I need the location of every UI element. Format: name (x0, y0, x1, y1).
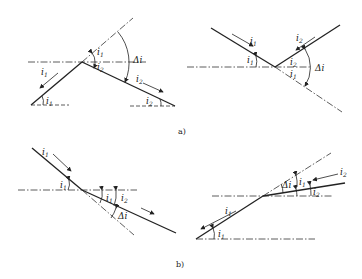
label-i1-top: i1 (97, 47, 104, 58)
label-i1-upper: i1 (299, 177, 306, 188)
caption-b: b) (176, 260, 184, 269)
label-i1-arrow: i1 (225, 206, 232, 217)
label-delta-i: Δi (281, 180, 291, 190)
panel-b-right: i1 i2 Δi i1 i2 i1 (196, 153, 347, 240)
label-i2-arrow: i2 (296, 33, 303, 44)
grade-line-i1 (196, 196, 263, 239)
label-i2-base: i2 (146, 96, 153, 107)
label-i2-mid: i2 (97, 62, 104, 73)
label-i1-arrow: i1 (42, 147, 49, 158)
label-i1-base: i1 (46, 96, 53, 107)
angle-arc-i2-inner (100, 190, 102, 203)
grade-line-i2 (275, 25, 340, 67)
grade-extension-line (82, 18, 133, 62)
label-delta-i: Δi (117, 211, 127, 221)
grade-line-i2 (82, 190, 176, 233)
label-i1-extension: i1 (290, 69, 297, 80)
direction-arrow-i2 (143, 83, 163, 92)
direction-arrow-i2 (313, 174, 338, 180)
label-i1-angle: i1 (60, 180, 67, 191)
caption-a: a) (178, 127, 186, 136)
angle-arc-i2-right (310, 185, 311, 196)
angle-arc-i1-upper (296, 175, 297, 187)
label-delta-i: Δi (314, 63, 324, 73)
label-i2-arrow: i2 (136, 74, 143, 85)
delta-i-arc (111, 208, 116, 218)
angle-arc-i1 (92, 53, 95, 62)
panel-a-right: i1 i2 i1 i2 i1 Δi (187, 25, 342, 112)
label-i2-arrow: i2 (340, 167, 347, 178)
label-i1-angle: i1 (247, 55, 254, 66)
angle-arc-base-i1 (213, 228, 214, 239)
label-i2-angle: i2 (290, 57, 297, 68)
label-i1-arrow: i1 (250, 36, 257, 47)
label-i1-extension: i1 (106, 193, 113, 204)
grade-line-i1 (32, 148, 82, 190)
label-delta-i: Δi (132, 55, 142, 65)
label-i2-right: i2 (313, 187, 320, 198)
label-i1-arrow: i1 (41, 67, 48, 78)
panel-b-left: i1 i1 i1 i2 Δi (18, 147, 176, 235)
diagram-svg: i1 i2 Δi i1 i2 i1 i2 i1 i2 i1 i2 i1 Δi a… (0, 0, 362, 279)
angle-arc-i1 (68, 180, 69, 190)
direction-arrow-i2 (141, 208, 154, 214)
angle-arc-i2-outer (114, 190, 116, 206)
grade-extension-line (275, 67, 342, 112)
panel-a-left: i1 i2 Δi i1 i2 i1 i2 (28, 18, 175, 107)
grade-change-diagram: i1 i2 Δi i1 i2 i1 i2 i1 i2 i1 i2 i1 Δi a… (0, 0, 362, 279)
label-i2-angle: i2 (121, 193, 128, 204)
grade-extension-line (263, 153, 331, 196)
label-i1-base: i1 (218, 229, 225, 240)
delta-i-arc (305, 49, 310, 86)
angle-arc-base-i1 (42, 96, 43, 105)
angle-arc-i1-left (256, 56, 257, 67)
grade-line-i1 (211, 28, 275, 67)
grade-line-i1 (31, 62, 82, 105)
delta-i-arc (118, 32, 129, 82)
angle-arc-i2 (94, 62, 95, 68)
